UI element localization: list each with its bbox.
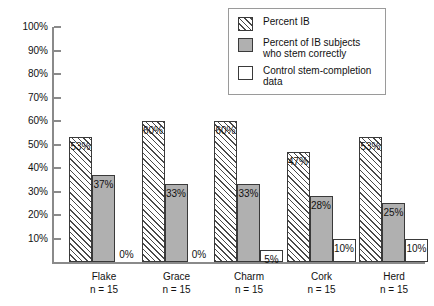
y-axis-tick-label: 80% [4,69,48,79]
bar-value-label: 37% [93,179,114,190]
bar: 60% [214,121,237,262]
y-axis-tick-label: 20% [4,210,48,220]
y-axis-tick-label-wrap: 50% [0,140,48,150]
bar: 25% [382,203,405,262]
legend-item-control-data: Control stem-completiondata [238,65,377,87]
bar: 10% [405,239,428,263]
bar: 60% [142,121,165,262]
legend-swatch-hatched-icon [238,17,253,31]
y-axis-tick-label: 10% [4,234,48,244]
legend-swatch-white-icon [238,66,253,80]
bar-group: 60%33%0% [142,27,212,262]
bar-chart: 10%20%30%40%50%60%70%80%90%100% 53%37%0%… [0,0,434,306]
y-axis-tick-label: 70% [4,93,48,103]
bar: 53% [69,137,92,262]
bar: 37% [92,175,115,262]
legend-label-control-data: Control stem-completiondata [263,65,371,87]
bar-value-label: 10% [406,243,427,254]
y-axis-tick-label: 60% [4,116,48,126]
bar-value-label: 0% [115,249,138,260]
bar: 10% [333,239,356,263]
y-axis-tick-label: 50% [4,140,48,150]
legend-item-percent-ib: Percent IB [238,16,377,31]
bar: 33% [165,184,188,262]
bar: 5% [260,250,283,262]
y-axis-tick-label: 100% [4,22,48,32]
y-axis-tick-label-wrap: 40% [0,163,48,173]
y-axis-tick-label-wrap: 80% [0,69,48,79]
bar-group: 53%37%0% [69,27,139,262]
bar: 47% [287,152,310,262]
y-axis-tick-label: 40% [4,163,48,173]
x-axis-category-name: Herd [349,270,434,283]
bar: 28% [310,196,333,262]
bar-value-label: 25% [383,207,404,218]
x-axis-line [52,262,425,264]
y-axis-tick-label-wrap: 60% [0,116,48,126]
bar-value-label: 5% [261,254,282,265]
bar-value-label: 33% [238,188,259,199]
bar-value-label: 53% [360,141,381,152]
legend-item-stem-correctly: Percent of IB subjectswho stem correctly [238,37,377,59]
bar: 53% [359,137,382,262]
x-axis-category-label: Herdn = 15 [349,270,434,296]
y-axis-tick-label-wrap: 30% [0,187,48,197]
legend-swatch-gray-icon [238,38,253,52]
y-axis-tick-label-wrap: 20% [0,210,48,220]
y-axis-tick-label: 30% [4,187,48,197]
y-axis-tick-label-wrap: 70% [0,93,48,103]
bar: 33% [237,184,260,262]
legend-label-percent-ib: Percent IB [263,16,310,27]
bar-value-label: 10% [334,243,355,254]
bar-value-label: 60% [143,125,164,136]
bar-value-label: 33% [166,188,187,199]
bar-value-label: 53% [70,141,91,152]
y-axis-tick-label-wrap: 100% [0,22,48,32]
legend-label-stem-correctly: Percent of IB subjectswho stem correctly [263,37,360,59]
y-axis-tick-label-wrap: 90% [0,46,48,56]
x-axis-category-count: n = 15 [349,283,434,296]
y-axis-tick-label-wrap: 10% [0,234,48,244]
bar-value-label: 28% [311,200,332,211]
y-axis-tick-label: 90% [4,46,48,56]
bar-value-label: 47% [288,156,309,167]
bar-value-label: 0% [188,249,211,260]
chart-legend: Percent IB Percent of IB subjectswho ste… [228,8,386,95]
bar-value-label: 60% [215,125,236,136]
